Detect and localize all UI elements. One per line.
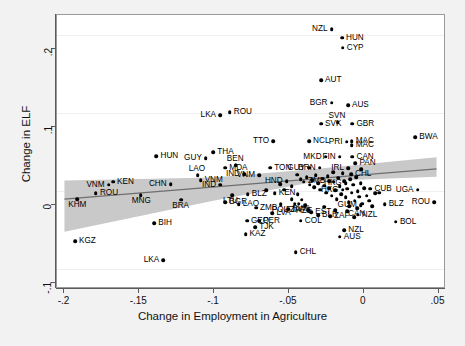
data-point [295,173,299,177]
point-label: BGR [310,99,328,107]
point-label: HKG [321,186,339,194]
x-tick-label: .05 [431,295,445,306]
data-point [224,200,228,204]
data-point [338,155,342,159]
x-tick [288,288,289,293]
data-point [416,188,420,192]
point-label: KEN [279,189,296,197]
point-label: AUT [325,76,341,84]
data-point [369,187,373,191]
data-point [319,122,323,126]
data-point [356,189,360,193]
point-label: BRA [172,202,189,210]
data-point [348,178,352,182]
data-point [271,139,275,143]
data-point [319,78,323,82]
point-label: UGA [396,186,414,194]
y-axis: .2.10-.1 [50,14,56,288]
x-tick-label: 0 [360,295,366,306]
y-tick-label: 0 [43,204,54,210]
point-label: ROU [412,198,430,206]
data-point [354,161,358,165]
data-point [271,211,275,215]
data-point [246,192,250,196]
point-label: GBR [356,120,374,128]
data-point [218,183,222,187]
fit-overlay [57,15,444,287]
data-point [307,139,311,143]
point-label: RWA [292,205,311,213]
data-point [237,203,241,207]
y-tick-label: .1 [43,126,54,134]
point-label: KEN [117,178,134,186]
data-point [357,195,361,199]
y-axis-label: Change in ELF [20,64,32,224]
data-point [111,180,115,184]
data-point [257,174,261,178]
data-point [204,156,208,160]
data-point [302,180,306,184]
point-label: FIN [323,153,336,161]
data-point [414,135,418,139]
data-point [346,167,350,171]
point-label: KAZ [250,230,266,238]
point-label: BLZ [389,200,404,208]
y-tick-label: -.1 [43,282,54,294]
data-point [365,194,369,198]
x-axis-line [56,288,445,289]
y-tick-label: .2 [43,48,54,56]
data-point [359,182,363,186]
data-point [350,143,354,147]
data-point [351,155,355,159]
y-axis-line [55,14,56,288]
x-axis-label: Change in Employment in Agriculture [0,310,465,322]
data-point [285,179,289,183]
data-point [349,172,353,176]
point-label: CHL [300,248,316,256]
point-label: GUM [338,201,357,209]
data-point [212,150,216,154]
point-label: CYP [347,44,364,52]
point-label: NCL [313,137,329,145]
data-point [268,166,272,170]
data-point [340,36,344,40]
data-point [432,200,436,204]
data-point [310,210,314,214]
data-point [228,110,232,114]
data-point [290,197,294,201]
data-point [339,192,343,196]
point-label: BIH [158,219,172,227]
point-label: HUN [346,34,364,42]
point-label: ROU [100,189,118,197]
data-point [345,187,349,191]
x-tick-label: -.15 [130,295,147,306]
point-label: PAN [359,159,375,167]
data-point [328,179,332,183]
data-point [107,183,111,187]
point-label: HND [265,177,283,185]
point-label: IND [202,181,216,189]
data-point [300,198,304,202]
data-point [254,206,258,210]
data-point [152,221,156,225]
data-point [313,185,317,189]
point-label: TTO [253,137,269,145]
data-point [345,140,349,144]
data-point [273,192,277,196]
data-point [341,46,345,50]
data-point [94,192,98,196]
data-point [351,122,355,126]
data-point [359,203,363,207]
data-point [330,101,334,105]
point-label: NZL [312,25,327,33]
point-label: LKA [201,111,216,119]
data-point [244,232,248,236]
x-tick [63,288,64,293]
data-point [169,182,173,186]
x-tick-label: -.05 [279,295,296,306]
data-point [299,219,303,223]
data-point [367,199,371,203]
point-label: MKD [303,153,321,161]
point-label: PRI [329,138,343,146]
point-label: AUS [344,233,361,241]
